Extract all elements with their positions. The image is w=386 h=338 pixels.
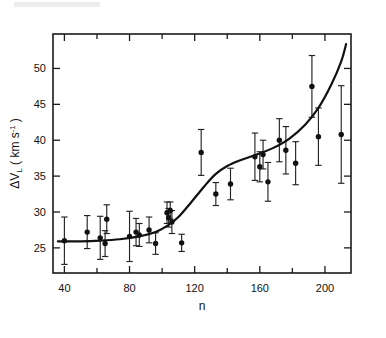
x-tick-label-80: 80 (123, 282, 135, 294)
data-point (153, 241, 158, 246)
data-point (84, 229, 89, 234)
data-point (309, 84, 314, 89)
data-point (265, 179, 270, 184)
data-point (277, 138, 282, 143)
data-point (293, 160, 298, 165)
data-point (198, 150, 203, 155)
y-tick-label-30: 30 (34, 206, 46, 218)
y-tick-label-50: 50 (34, 62, 46, 74)
scan-artifact (14, 2, 100, 7)
x-tick-label-120: 120 (185, 282, 203, 294)
data-point (283, 148, 288, 153)
data-point (339, 132, 344, 137)
data-point (316, 134, 321, 139)
scatter-plot: 4080120160200n253035404550ΔVL ( km s-1 ) (0, 0, 386, 338)
data-point (228, 181, 233, 186)
y-tick-label-25: 25 (34, 242, 46, 254)
figure-panel: 4080120160200n253035404550ΔVL ( km s-1 ) (0, 0, 386, 338)
y-tick-label-45: 45 (34, 98, 46, 110)
data-point (102, 241, 107, 246)
y-axis-title: ΔVL ( km s-1 ) (8, 118, 24, 189)
x-tick-label-160: 160 (251, 282, 269, 294)
data-point (104, 216, 109, 221)
model-curve (58, 44, 346, 241)
data-point (146, 227, 151, 232)
y-tick-label-35: 35 (34, 170, 46, 182)
data-point (179, 240, 184, 245)
data-point (168, 208, 173, 213)
y-tick-label-40: 40 (34, 134, 46, 146)
x-tick-label-40: 40 (58, 282, 70, 294)
data-point (213, 191, 218, 196)
data-point (257, 164, 262, 169)
data-point (166, 215, 171, 220)
x-axis-title: n (199, 299, 206, 313)
x-tick-label-200: 200 (316, 282, 334, 294)
